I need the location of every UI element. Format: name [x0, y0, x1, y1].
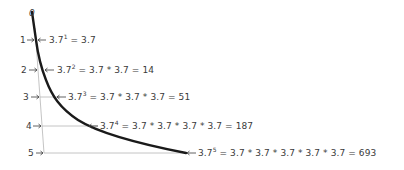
row-1-index-label: 1 — [20, 35, 26, 45]
row-1-base: 3.7 — [49, 35, 64, 45]
row-1-right-arrow-icon — [38, 38, 46, 42]
row-2-right-arrow-icon — [45, 68, 54, 72]
row-3-expansion: = 3.7 * 3.7 * 3.7 = 51 — [90, 92, 191, 102]
row-1-expansion: = 3.7 — [71, 35, 96, 45]
row-3-base: 3.7 — [68, 92, 83, 102]
row-2-index-label: 2 — [21, 65, 27, 75]
row-5-left-arrow-icon — [36, 151, 43, 155]
diagram-canvas — [0, 0, 404, 170]
row-3-right-arrow-icon — [57, 95, 66, 99]
row-5-expansion: = 3.7 * 3.7 * 3.7 * 3.7 * 3.7 = 693 — [220, 148, 377, 158]
row-5-base: 3.7 — [198, 148, 213, 158]
row-4-equation: 3.74 = 3.7 * 3.7 * 3.7 * 3.7 = 187 — [100, 121, 253, 131]
row-1-left-arrow-icon — [27, 38, 34, 42]
row-2-left-arrow-icon — [29, 68, 37, 72]
row-4-exponent: 4 — [115, 119, 119, 126]
row-5-exponent: 5 — [213, 146, 217, 153]
exponent-growth-diagram: 0 1 2 3 4 5 3.71 = 3.7 3.72 = 3.7 * 3.7 … — [0, 0, 404, 170]
row-4-left-arrow-icon — [33, 124, 41, 128]
row-4-base: 3.7 — [100, 121, 115, 131]
row-3-left-arrow-icon — [31, 95, 39, 99]
row-3-exponent: 3 — [83, 90, 87, 97]
row-3-equation: 3.73 = 3.7 * 3.7 * 3.7 = 51 — [68, 92, 190, 102]
row-2-expansion: = 3.7 * 3.7 = 14 — [79, 65, 155, 75]
row-1-equation: 3.71 = 3.7 — [49, 35, 96, 45]
row-2-base: 3.7 — [57, 65, 72, 75]
row-5-index-label: 5 — [28, 148, 34, 158]
row-2-equation: 3.72 = 3.7 * 3.7 = 14 — [57, 65, 154, 75]
row-5-right-arrow-icon — [187, 151, 196, 155]
row-3-index-label: 3 — [23, 92, 29, 102]
row-1-exponent: 1 — [64, 33, 68, 40]
row-5-equation: 3.75 = 3.7 * 3.7 * 3.7 * 3.7 * 3.7 = 693 — [198, 148, 376, 158]
row-4-expansion: = 3.7 * 3.7 * 3.7 * 3.7 = 187 — [122, 121, 254, 131]
exponential-curve — [32, 12, 186, 153]
row-2-exponent: 2 — [72, 63, 76, 70]
row-4-index-label: 4 — [26, 121, 32, 131]
origin-label: 0 — [29, 8, 35, 18]
